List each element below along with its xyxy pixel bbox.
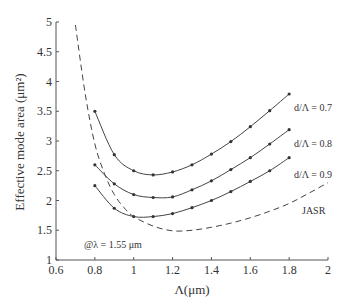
y-tick-label: 5 [46, 15, 52, 29]
data-point-marker [268, 169, 271, 172]
data-point-marker [113, 153, 116, 156]
data-point-marker [93, 110, 96, 113]
y-tick-label: 1 [46, 253, 52, 267]
data-point-marker [268, 142, 271, 145]
data-point-marker [288, 128, 291, 131]
y-tick-label: 1.5 [37, 223, 52, 237]
y-tick-label: 2 [46, 194, 52, 208]
series-label: d/Λ = 0.7 [294, 102, 332, 113]
x-tick-label: 1 [131, 263, 137, 277]
data-point-marker [171, 212, 174, 215]
chart-canvas: 0.60.811.21.41.61.8211.522.533.544.55 d/… [0, 0, 345, 307]
data-point-marker [249, 125, 252, 128]
x-tick-label: 1.6 [243, 263, 258, 277]
y-axis-label: Effective mode area (μm²) [12, 73, 27, 210]
y-tick-label: 2.5 [37, 164, 52, 178]
y-tick-label: 4.5 [37, 45, 52, 59]
data-point-marker [210, 179, 213, 182]
data-series [75, 25, 328, 231]
x-tick-label: 2 [325, 263, 331, 277]
data-point-marker [152, 215, 155, 218]
data-point-marker [229, 190, 232, 193]
axes: 0.60.811.21.41.61.8211.522.533.544.55 [37, 15, 331, 277]
data-point-marker [132, 193, 135, 196]
series-label: JASR [302, 205, 326, 216]
data-point-marker [249, 180, 252, 183]
data-point-marker [229, 140, 232, 143]
series-labels: d/Λ = 0.7d/Λ = 0.8d/Λ = 0.9JASR [294, 102, 332, 216]
x-tick-label: 1.4 [204, 263, 219, 277]
data-point-marker [93, 184, 96, 187]
data-point-marker [171, 170, 174, 173]
data-point-marker [210, 199, 213, 202]
x-tick-label: 1.8 [282, 263, 297, 277]
y-tick-label: 4 [46, 75, 52, 89]
data-point-marker [171, 195, 174, 198]
data-point-marker [229, 168, 232, 171]
y-tick-label: 3 [46, 134, 52, 148]
data-point-marker [113, 207, 116, 210]
data-point-marker [268, 109, 271, 112]
x-axis-label: Λ(μm) [174, 282, 209, 297]
data-point-marker [190, 188, 193, 191]
y-tick-label: 3.5 [37, 104, 52, 118]
data-point-marker [288, 156, 291, 159]
wavelength-annotation: @λ = 1.55 μm [84, 239, 142, 250]
data-point-marker [132, 169, 135, 172]
series-label: d/Λ = 0.8 [294, 138, 332, 149]
series-line-d-ratio-0 [95, 94, 289, 175]
effective-mode-area-chart: 0.60.811.21.41.61.8211.522.533.544.55 d/… [0, 0, 345, 307]
data-point-marker [93, 163, 96, 166]
data-point-marker [210, 152, 213, 155]
data-point-marker [113, 182, 116, 185]
series-line-jasr [75, 25, 328, 231]
data-point-marker [190, 206, 193, 209]
x-tick-label: 0.8 [87, 263, 102, 277]
data-point-marker [152, 173, 155, 176]
series-label: d/Λ = 0.9 [294, 169, 332, 180]
data-point-marker [190, 163, 193, 166]
x-tick-label: 1.2 [165, 263, 180, 277]
data-point-marker [288, 92, 291, 95]
data-point-marker [152, 196, 155, 199]
data-point-marker [249, 156, 252, 159]
